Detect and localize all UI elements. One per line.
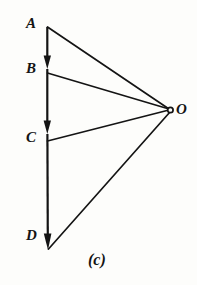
figure-container: A B C D O (c) [0,0,197,285]
vertex-label-c: C [26,130,36,145]
figure-caption: (c) [88,252,106,268]
arrowhead-at-B [44,56,51,70]
arrowhead-at-C [44,121,51,135]
vertex-label-o: O [176,102,187,117]
segment-D-to-O [49,112,171,249]
vertex-label-b: B [26,61,36,76]
segment-A-to-O [48,27,170,109]
node-marker-O [168,107,173,112]
vertex-label-d: D [26,228,37,243]
vertex-label-a: A [26,16,36,31]
segment-B-to-O [48,73,170,109]
segment-C-to-O [48,110,170,141]
